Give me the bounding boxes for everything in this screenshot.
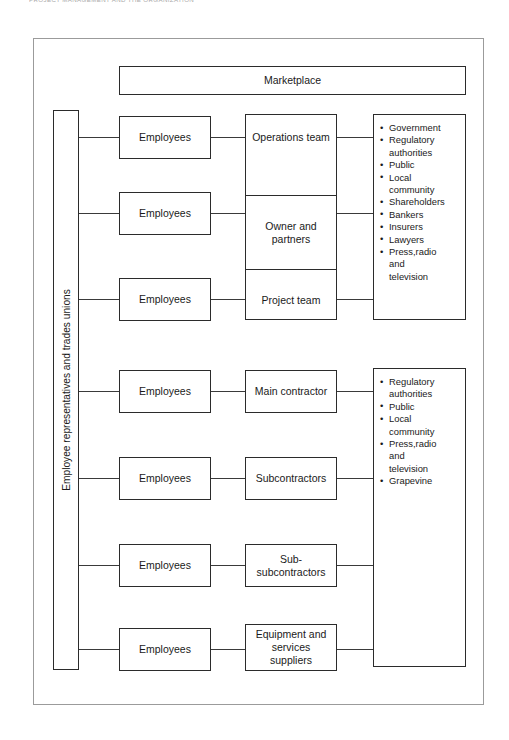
marketplace-box: Marketplace: [119, 66, 466, 95]
employees-box-6: Employees: [119, 544, 211, 587]
connector-vlabel-employees-1: [79, 137, 119, 138]
list-item: Press,radio and television: [389, 246, 460, 283]
sub-subcontractors-box: Sub- subcontractors: [245, 544, 337, 587]
connector-vlabel-employees-6: [79, 565, 119, 566]
connector-vlabel-employees-2: [79, 213, 119, 214]
stakeholders-upper-box: Government Regulatory authorities Public…: [373, 114, 466, 320]
list-item: Grapevine: [389, 475, 460, 487]
stakeholders-upper-list: Government Regulatory authorities Public…: [374, 115, 465, 283]
operations-team-label: Operations team: [252, 131, 330, 144]
project-team-cell: Project team: [246, 269, 336, 318]
organization-stack: Operations team Owner and partners Proje…: [245, 114, 337, 320]
connector-employees-org-6: [211, 565, 245, 566]
employees-box-7: Employees: [119, 628, 211, 671]
connector-employees-org-5: [211, 478, 245, 479]
connector-org-stakeholders-5: [337, 478, 373, 479]
list-item: Bankers: [389, 209, 460, 221]
connector-employees-org-2: [211, 213, 245, 214]
employee-representatives-label: Employee representatives and trades unio…: [61, 289, 72, 491]
connector-vlabel-employees-4: [79, 391, 119, 392]
equipment-services-suppliers-box: Equipment and services suppliers: [245, 624, 337, 671]
employees-box-1: Employees: [119, 116, 211, 159]
list-item: Local community: [389, 172, 460, 197]
subcontractors-label: Subcontractors: [256, 472, 327, 485]
marketplace-label: Marketplace: [264, 74, 321, 87]
connector-org-stakeholders-4: [337, 391, 373, 392]
employees-label: Employees: [139, 643, 191, 656]
connector-org-stakeholders-3: [337, 299, 373, 300]
list-item: Shareholders: [389, 196, 460, 208]
connector-vlabel-employees-5: [79, 478, 119, 479]
employees-box-5: Employees: [119, 457, 211, 500]
list-item: Regulatory authorities: [389, 134, 460, 159]
connector-employees-org-1: [211, 137, 245, 138]
employees-label: Employees: [139, 207, 191, 220]
equipment-services-suppliers-label: Equipment and services suppliers: [256, 628, 327, 667]
list-item: Press,radio and television: [389, 438, 460, 475]
employees-box-3: Employees: [119, 278, 211, 321]
list-item: Lawyers: [389, 234, 460, 246]
connector-employees-org-7: [211, 649, 245, 650]
employees-label: Employees: [139, 293, 191, 306]
connector-org-stakeholders-6: [337, 565, 373, 566]
employees-label: Employees: [139, 385, 191, 398]
owner-and-partners-cell: Owner and partners: [246, 195, 336, 269]
employees-box-4: Employees: [119, 370, 211, 413]
project-team-label: Project team: [262, 294, 321, 307]
stakeholders-lower-box: Regulatory authorities Public Local comm…: [373, 368, 466, 667]
list-item: Public: [389, 401, 460, 413]
employee-representatives-bar: Employee representatives and trades unio…: [53, 110, 79, 670]
connector-vlabel-employees-3: [79, 299, 119, 300]
sub-subcontractors-label: Sub- subcontractors: [257, 553, 326, 579]
employees-label: Employees: [139, 472, 191, 485]
operations-team-cell: Operations team: [246, 115, 336, 195]
list-item: Insurers: [389, 221, 460, 233]
connector-vlabel-employees-7: [79, 649, 119, 650]
stakeholders-lower-list: Regulatory authorities Public Local comm…: [374, 369, 465, 488]
employees-label: Employees: [139, 131, 191, 144]
connector-employees-org-4: [211, 391, 245, 392]
connector-org-stakeholders-7: [337, 649, 373, 650]
employees-label: Employees: [139, 559, 191, 572]
connector-employees-org-3: [211, 299, 245, 300]
list-item: Regulatory authorities: [389, 376, 460, 401]
list-item: Public: [389, 159, 460, 171]
running-head: Project management and the organization: [29, 0, 194, 3]
connector-org-stakeholders-1: [337, 137, 373, 138]
subcontractors-box: Subcontractors: [245, 457, 337, 500]
owner-and-partners-label: Owner and partners: [246, 220, 336, 246]
employees-box-2: Employees: [119, 192, 211, 235]
connector-org-stakeholders-2: [337, 213, 373, 214]
main-contractor-box: Main contractor: [245, 370, 337, 413]
list-item: Government: [389, 122, 460, 134]
list-item: Local community: [389, 413, 460, 438]
main-contractor-label: Main contractor: [255, 385, 327, 398]
